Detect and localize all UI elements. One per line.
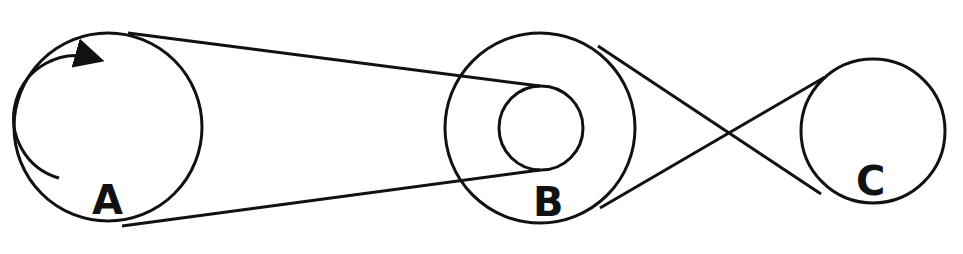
pulley-diagram: A B C [0, 0, 963, 254]
rotation-arrow-icon [14, 56, 93, 178]
pulley-b-label: B [533, 179, 564, 225]
pulley-a-label: A [92, 177, 123, 223]
belt-b-c-cross-1 [598, 46, 821, 194]
pulley-b-inner [499, 86, 583, 170]
pulley-c-label: C [856, 158, 885, 204]
